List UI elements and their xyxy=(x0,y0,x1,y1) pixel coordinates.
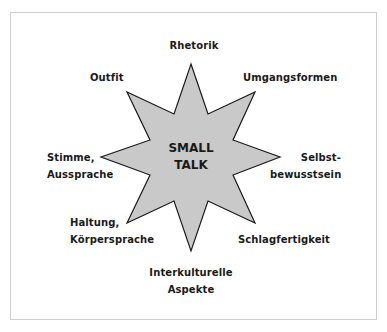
label-interkulturelle-aspekte: Interkulturelle Aspekte xyxy=(141,264,241,298)
label-outfit: Outfit xyxy=(90,69,124,86)
label-text: Rhetorik xyxy=(154,37,234,54)
label-text: Umgangsformen xyxy=(243,69,337,86)
center-label: SMALL TALK xyxy=(141,140,241,174)
label-text-line1: Stimme, xyxy=(47,149,113,166)
label-stimme-aussprache: Stimme, Aussprache xyxy=(47,149,113,183)
center-label-line1: SMALL xyxy=(141,140,241,157)
label-text-line1: Haltung, xyxy=(70,214,154,231)
label-text-line2: Aussprache xyxy=(47,166,113,183)
label-rhetorik: Rhetorik xyxy=(154,37,234,54)
label-selbstbewusstsein: Selbst- bewusstsein xyxy=(270,149,341,183)
label-text-line1: Selbst- xyxy=(270,149,341,166)
label-text-line2: Körpersprache xyxy=(70,231,154,248)
label-haltung-koerpersprache: Haltung, Körpersprache xyxy=(70,214,154,248)
center-label-line2: TALK xyxy=(141,157,241,174)
label-text-line2: bewusstsein xyxy=(270,166,341,183)
label-text-line2: Aspekte xyxy=(141,281,241,298)
label-schlagfertigkeit: Schlagfertigkeit xyxy=(238,231,330,248)
label-text: Schlagfertigkeit xyxy=(238,231,330,248)
label-umgangsformen: Umgangsformen xyxy=(243,69,337,86)
label-text: Outfit xyxy=(90,69,124,86)
label-text-line1: Interkulturelle xyxy=(141,264,241,281)
